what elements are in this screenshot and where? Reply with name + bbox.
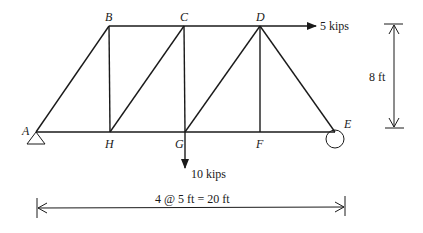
node-label-B: B — [105, 10, 113, 24]
node-label-H: H — [104, 137, 115, 151]
load-label-10-kips: 10 kips — [191, 167, 226, 181]
height-dimension — [384, 24, 404, 128]
member-BH — [109, 26, 110, 132]
member-GD — [185, 26, 260, 132]
load-label-5-kips: 5 kips — [320, 19, 349, 33]
node-label-D: D — [255, 10, 265, 24]
member-DE — [260, 26, 335, 132]
node-label-F: F — [255, 137, 264, 151]
member-AB — [36, 26, 109, 132]
member-CG — [184, 26, 185, 132]
span-dimension-label: 4 @ 5 ft = 20 ft — [155, 192, 230, 206]
pin-support-icon — [27, 132, 45, 144]
node-label-G: G — [175, 137, 184, 151]
node-label-E: E — [343, 117, 352, 131]
node-label-C: C — [180, 10, 189, 24]
node-label-A: A — [21, 124, 30, 138]
truss-members — [36, 26, 335, 132]
truss-diagram: 5 kips 10 kips A B C D E F G H 8 ft 4 @ … — [0, 0, 423, 233]
member-HC — [110, 26, 184, 132]
height-dimension-label: 8 ft — [369, 70, 386, 84]
